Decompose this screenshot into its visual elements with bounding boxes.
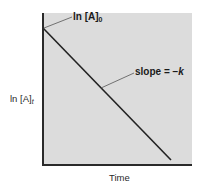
intercept-annotation: ln [A]0	[73, 11, 102, 25]
x-axis	[42, 164, 192, 166]
x-axis-label: Time	[109, 172, 130, 183]
slope-leader-line	[101, 73, 134, 88]
y-axis-label: ln [A]t	[10, 93, 34, 107]
slope-k: k	[178, 66, 184, 77]
y-axis	[42, 13, 44, 165]
data-line	[43, 28, 171, 160]
intercept-label: ln [A]	[73, 11, 99, 22]
slope-label: slope = −	[135, 66, 178, 77]
intercept-leader-line	[44, 17, 72, 28]
y-axis-label-subscript: t	[32, 98, 34, 105]
y-axis-label-main: ln [A]	[10, 93, 32, 104]
slope-annotation: slope = −k	[135, 66, 184, 77]
chart-lines	[0, 0, 204, 183]
intercept-subscript: 0	[99, 16, 103, 23]
